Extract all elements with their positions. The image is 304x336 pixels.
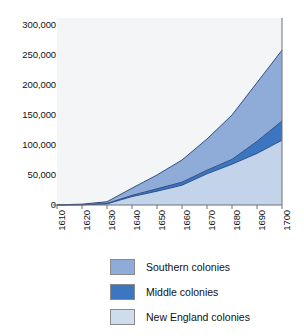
legend-swatch-southern-icon xyxy=(110,259,135,275)
x-tick-label-1620: 1620 xyxy=(82,210,92,254)
x-tick-label-1650: 1650 xyxy=(157,210,167,254)
x-tick-label-1690: 1690 xyxy=(257,210,267,254)
legend-label-southern: Southern colonies xyxy=(146,261,230,273)
chart-legend: Southern colonies Middle colonies New En… xyxy=(110,256,304,331)
colonial-population-area-chart: 300,000 250,000 200,000 150,000 100,000 … xyxy=(0,0,304,336)
legend-label-middle: Middle colonies xyxy=(146,286,218,298)
legend-swatch-new-england-icon xyxy=(110,309,135,325)
legend-item-middle: Middle colonies xyxy=(110,281,304,303)
legend-item-new-england: New England colonies xyxy=(110,306,304,328)
x-axis-tick-marks xyxy=(57,205,282,209)
x-tick-label-1680: 1680 xyxy=(232,210,242,254)
x-tick-label-1630: 1630 xyxy=(107,210,117,254)
x-tick-label-1660: 1660 xyxy=(182,210,192,254)
x-tick-label-1670: 1670 xyxy=(207,210,217,254)
legend-swatch-middle-icon xyxy=(110,284,135,300)
legend-label-new-england: New England colonies xyxy=(146,311,250,323)
x-tick-label-1640: 1640 xyxy=(132,210,142,254)
legend-item-southern: Southern colonies xyxy=(110,256,304,278)
plot-area: 300,000 250,000 200,000 150,000 100,000 … xyxy=(0,0,304,250)
x-tick-label-1700: 1700 xyxy=(282,210,292,254)
x-tick-label-1610: 1610 xyxy=(57,210,67,254)
